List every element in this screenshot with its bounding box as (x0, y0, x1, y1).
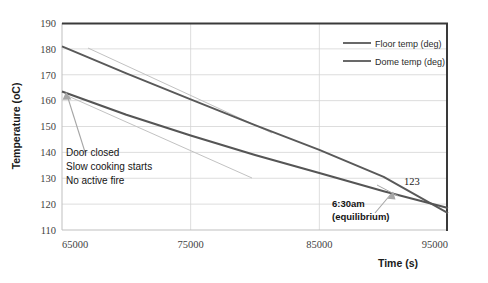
annotation-equilibrium-line-1: 6:30am (332, 198, 365, 209)
y-tick-150: 150 (40, 121, 56, 132)
legend-label-dome-temp: Dome temp (deg) (375, 57, 445, 67)
annotation-equilibrium-line-2: (equilibrium) (332, 211, 390, 222)
x-tick-75000: 75000 (178, 239, 204, 250)
x-axis-tick-labels: 65000 75000 85000 95000 (62, 239, 448, 250)
y-tick-110: 110 (41, 225, 56, 236)
y-axis-title: Temperature (oC) (10, 83, 22, 170)
x-tick-65000: 65000 (62, 239, 88, 250)
temperature-time-line-chart: 190 180 170 160 150 140 130 120 110 6500… (0, 0, 488, 283)
y-tick-160: 160 (40, 95, 56, 106)
y-tick-130: 130 (40, 173, 56, 184)
annotation-door-closed-line-2: Slow cooking starts (66, 161, 152, 172)
chart-container: 190 180 170 160 150 140 130 120 110 6500… (0, 0, 488, 283)
annotation-equilibrium-value: 123 (404, 176, 420, 187)
x-tick-95000: 95000 (422, 239, 448, 250)
y-tick-170: 170 (40, 70, 56, 81)
y-axis-tick-labels: 190 180 170 160 150 140 130 120 110 (40, 18, 56, 236)
x-tick-85000: 85000 (306, 239, 332, 250)
legend-label-floor-temp: Floor temp (deg) (375, 39, 442, 49)
annotation-door-closed-line-3: No active fire (66, 175, 125, 186)
y-tick-120: 120 (40, 199, 56, 210)
y-tick-190: 190 (40, 18, 56, 29)
annotation-door-closed-line-1: Door closed (66, 147, 119, 158)
y-tick-180: 180 (40, 44, 56, 55)
x-axis-title: Time (s) (378, 257, 418, 269)
y-tick-140: 140 (40, 147, 56, 158)
